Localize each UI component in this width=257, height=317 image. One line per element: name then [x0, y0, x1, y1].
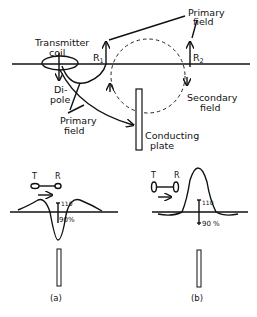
- tick-90-label: 90: [59, 216, 68, 224]
- dipole-label-2: pole: [50, 94, 70, 105]
- tick-110-label: 110: [202, 199, 214, 206]
- transmitter-coil-icon: [31, 184, 39, 189]
- em-induction-diagram: Transmitter coil Di- pole Primary field …: [0, 0, 257, 317]
- panel-b: T R 110 90 % (b): [150, 168, 248, 303]
- leader-line: [109, 16, 185, 40]
- secondary-field-circle: [111, 39, 185, 113]
- r-label: R: [55, 172, 61, 181]
- percent-label: %: [68, 216, 75, 224]
- plate-icon: [197, 250, 201, 287]
- caption-a: (a): [50, 293, 62, 303]
- r2-label: R2: [193, 52, 204, 65]
- panel-a: T R 110 90 % (a): [10, 172, 118, 303]
- percent-label: %: [213, 220, 220, 228]
- conducting-plate-label-2: plate: [150, 140, 174, 151]
- t-label: T: [150, 171, 156, 180]
- receiver-coil-icon: [174, 182, 179, 192]
- transmitter-coil-icon: [42, 56, 78, 70]
- transmitter-label-2: coil: [49, 47, 65, 58]
- t-label: T: [31, 172, 37, 181]
- response-curve-b: [158, 168, 238, 215]
- conducting-plate: [136, 89, 142, 150]
- secondary-field-label-2: field: [200, 102, 221, 113]
- primary-field-label-bottom-2: field: [64, 125, 85, 136]
- tick-90-label: 90: [202, 220, 211, 228]
- tick-110-label: 110: [61, 200, 73, 207]
- primary-field-label-top-2: field: [193, 16, 214, 27]
- transmitter-coil-icon: [152, 182, 157, 192]
- r-label: R: [174, 171, 180, 180]
- r1-label: R1: [93, 52, 104, 65]
- top-diagram: Transmitter coil Di- pole Primary field …: [12, 7, 250, 151]
- plate-icon: [57, 249, 61, 286]
- caption-b: (b): [191, 293, 203, 303]
- receiver-coil-icon: [55, 184, 61, 189]
